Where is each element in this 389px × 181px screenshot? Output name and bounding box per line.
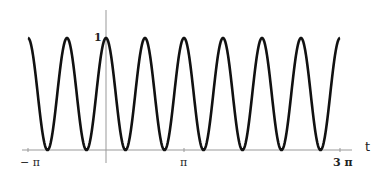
cos-squared-curve: [28, 38, 340, 150]
y-tick-label-1: 1: [94, 32, 102, 43]
x-tick-label-3pi: 3 π: [333, 157, 353, 168]
x-axis-label: t: [365, 140, 370, 153]
x-tick-label-neg-pi: − π: [20, 157, 40, 168]
chart-canvas: [0, 0, 389, 181]
x-tick-label-pi: π: [180, 157, 187, 168]
